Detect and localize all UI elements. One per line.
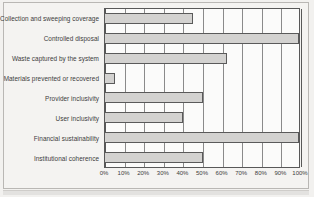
category-label-row: Materials prevented or recovered bbox=[0, 68, 102, 88]
x-tick-label: 50% bbox=[196, 170, 208, 176]
category-label: Materials prevented or recovered bbox=[4, 75, 99, 82]
x-tick-label: 80% bbox=[255, 170, 267, 176]
x-tick-label: 70% bbox=[235, 170, 247, 176]
x-tick-label: 30% bbox=[157, 170, 169, 176]
bar-row bbox=[105, 29, 299, 49]
bars-group bbox=[105, 9, 299, 167]
bar bbox=[104, 33, 299, 44]
bar-chart: Collection and sweeping coverageControll… bbox=[0, 0, 314, 197]
category-label: Collection and sweeping coverage bbox=[0, 15, 99, 22]
plot-area bbox=[104, 8, 300, 168]
x-axis-tick-labels: 0%10%20%30%40%50%60%70%80%90%100% bbox=[104, 170, 300, 184]
bar bbox=[104, 92, 203, 103]
category-label-row: Financial sustainability bbox=[0, 128, 102, 148]
bar-row bbox=[105, 147, 299, 167]
category-label-row: Waste captured by the system bbox=[0, 48, 102, 68]
bar-row bbox=[105, 128, 299, 148]
category-label-row: Provider inclusivity bbox=[0, 88, 102, 108]
category-label-row: User inclusivity bbox=[0, 108, 102, 128]
bar bbox=[104, 73, 115, 84]
bar bbox=[104, 112, 183, 123]
category-axis-labels: Collection and sweeping coverageControll… bbox=[0, 8, 102, 168]
x-tick-label: 0% bbox=[100, 170, 109, 176]
x-tick-label: 20% bbox=[137, 170, 149, 176]
figure-footer-strip bbox=[3, 190, 309, 195]
x-tick-label: 40% bbox=[176, 170, 188, 176]
bar bbox=[104, 13, 193, 24]
category-label: User inclusivity bbox=[56, 115, 99, 122]
x-tick-label: 10% bbox=[118, 170, 130, 176]
bar-row bbox=[105, 88, 299, 108]
bar-row bbox=[105, 108, 299, 128]
bar bbox=[104, 132, 299, 143]
chart-figure: Collection and sweeping coverageControll… bbox=[0, 0, 314, 197]
category-label-row: Collection and sweeping coverage bbox=[0, 8, 102, 28]
bar bbox=[104, 53, 227, 64]
gridline-100 bbox=[301, 9, 302, 167]
x-tick-label: 90% bbox=[274, 170, 286, 176]
bar-row bbox=[105, 68, 299, 88]
category-label: Institutional coherence bbox=[34, 155, 99, 162]
category-label: Controlled disposal bbox=[44, 35, 99, 42]
category-label-row: Institutional coherence bbox=[0, 148, 102, 168]
category-label: Provider inclusivity bbox=[45, 95, 99, 102]
x-tick-label: 100% bbox=[292, 170, 307, 176]
category-label: Financial sustainability bbox=[34, 135, 99, 142]
category-label: Waste captured by the system bbox=[12, 55, 99, 62]
bar-row bbox=[105, 49, 299, 69]
category-label-row: Controlled disposal bbox=[0, 28, 102, 48]
bar bbox=[104, 152, 203, 163]
x-tick-label: 60% bbox=[216, 170, 228, 176]
bar-row bbox=[105, 9, 299, 29]
